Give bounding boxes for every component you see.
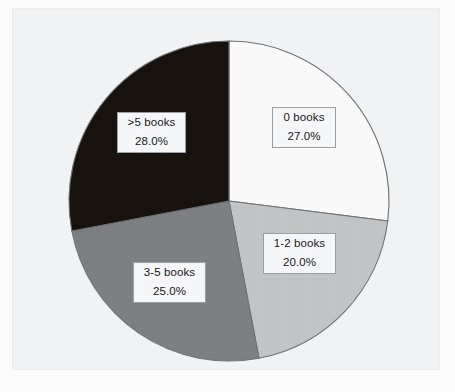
pie-label-0-books-category: 0 books [279, 112, 329, 124]
pie-label-3-5-books-category: 3-5 books [140, 267, 199, 279]
pie-label-over-5-books: >5 books 28.0% [117, 112, 186, 153]
pie-label-1-2-books-percent: 20.0% [270, 257, 329, 269]
pie-label-1-2-books-category: 1-2 books [270, 238, 329, 250]
pie-label-0-books: 0 books 27.0% [272, 107, 336, 148]
pie-chart-canvas [0, 0, 455, 392]
pie-label-3-5-books: 3-5 books 25.0% [133, 262, 206, 303]
pie-label-over-5-books-percent: 28.0% [124, 136, 179, 148]
pie-chart-figure: 0 books 27.0% 1-2 books 20.0% 3-5 books … [0, 0, 455, 392]
pie-label-3-5-books-percent: 25.0% [140, 286, 199, 298]
pie-label-0-books-percent: 27.0% [279, 131, 329, 143]
pie-label-1-2-books: 1-2 books 20.0% [263, 233, 336, 274]
pie-label-over-5-books-category: >5 books [124, 117, 179, 129]
